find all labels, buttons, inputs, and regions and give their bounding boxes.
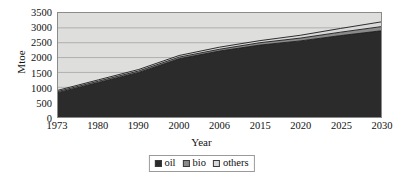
x-tick-label: 1980	[87, 120, 108, 131]
legend-swatch-oil	[154, 160, 161, 167]
y-tick-label: 3500	[31, 7, 52, 18]
x-tick-label: 2000	[168, 120, 189, 131]
y-tick-label: 2500	[31, 37, 52, 48]
y-tick-label: 2000	[31, 52, 52, 63]
x-tick-label: 1990	[128, 120, 149, 131]
legend-swatch-bio	[183, 160, 190, 167]
legend-label-oil: oil	[164, 157, 175, 169]
x-tick-label: 2030	[372, 120, 393, 131]
series-areas	[58, 22, 381, 117]
legend-item-oil[interactable]: oil	[154, 157, 175, 169]
plot-svg	[58, 13, 381, 117]
y-axis-tick-labels: 0500100015002000250030003500	[12, 0, 55, 187]
x-tick-label: 2015	[250, 120, 271, 131]
x-tick-label: 2006	[209, 120, 230, 131]
y-tick-label: 500	[36, 97, 52, 108]
legend-label-others: others	[223, 157, 249, 169]
y-tick-label: 3000	[31, 22, 52, 33]
plot-area	[57, 12, 382, 118]
y-tick-label: 1500	[31, 67, 52, 78]
legend-swatch-others	[213, 160, 220, 167]
x-tick-label: 2020	[290, 120, 311, 131]
y-tick-label: 1000	[31, 82, 52, 93]
x-tick-label: 1973	[47, 120, 68, 131]
legend-item-others[interactable]: others	[213, 157, 249, 169]
legend-item-bio[interactable]: bio	[183, 157, 206, 169]
x-axis-tick-labels: 197319801990200020062015202020252030	[0, 120, 403, 134]
chart-container: Mtoe 0500100015002000250030003500 197319…	[0, 0, 403, 187]
chart-legend: oil bio others	[148, 155, 254, 172]
legend-label-bio: bio	[193, 157, 206, 169]
x-tick-label: 2025	[331, 120, 352, 131]
x-axis-title: Year	[0, 136, 403, 148]
area-series-oil	[58, 31, 381, 117]
